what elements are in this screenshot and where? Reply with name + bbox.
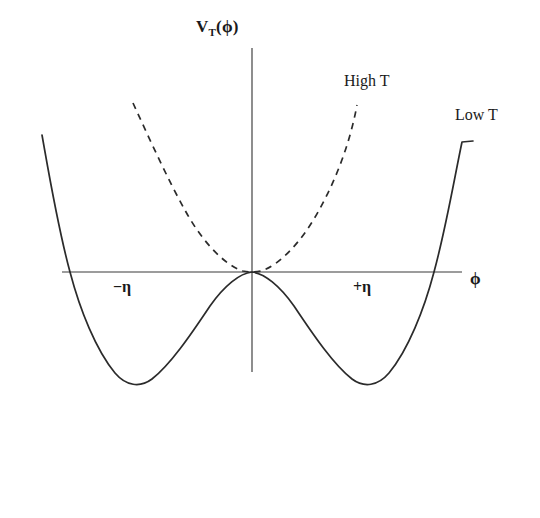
y-axis-label-main: V [196,17,208,36]
low-t-curve [42,135,473,385]
low-t-annotation: Low T [455,107,498,123]
y-axis-label: VT(ϕ) [196,18,239,38]
high-t-annotation: High T [344,73,389,89]
y-axis-label-subscript: T [208,26,216,38]
high-t-curve [133,103,357,272]
potential-diagram: VT(ϕ) ϕ −η +η High T Low T [0,0,540,518]
y-axis-label-argument: (ϕ) [216,17,239,36]
plot-canvas [0,0,540,518]
x-tick-label-positive-eta: +η [353,279,371,295]
x-axis-label: ϕ [470,270,481,287]
x-tick-label-negative-eta: −η [113,279,131,295]
